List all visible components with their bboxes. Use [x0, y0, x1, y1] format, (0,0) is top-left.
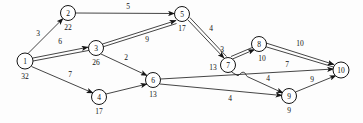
edge-7-9: 4 — [232, 72, 284, 93]
edge-4-6 — [106, 84, 147, 94]
edge-weight-9-10: 9 — [310, 75, 314, 84]
network-diagram: 3 6 7 5 9 2 — [0, 0, 363, 123]
node-6-value: 13 — [149, 90, 157, 99]
edge-1-4: 7 — [32, 67, 94, 94]
edge-weight-3-6: 2 — [124, 53, 128, 62]
node-7[interactable]: 7 13 — [209, 58, 235, 73]
node-3-value: 26 — [92, 58, 100, 67]
node-1-value: 32 — [21, 72, 29, 81]
node-2-label: 2 — [66, 9, 70, 18]
graph-canvas: 3 6 7 5 9 2 — [0, 0, 363, 123]
node-2-value: 22 — [64, 23, 72, 32]
edge-6-9: 4 — [160, 84, 282, 103]
edge-3-5: 9 — [102, 21, 177, 48]
edge-weight-7-9: 4 — [266, 74, 270, 83]
node-4-value: 17 — [95, 107, 103, 116]
edge-9-10: 9 — [296, 75, 337, 92]
node-3[interactable]: 3 26 — [89, 41, 104, 68]
edge-weight-6-10: 7 — [285, 60, 289, 69]
node-5[interactable]: 5 17 — [175, 7, 190, 34]
edge-weight-1-4: 7 — [68, 70, 72, 79]
node-8-value: 10 — [258, 54, 266, 63]
node-1[interactable]: 1 32 — [17, 53, 33, 81]
edge-weight-2-5: 5 — [126, 2, 130, 11]
node-9[interactable]: 9 9 — [282, 89, 297, 116]
node-10-label: 10 — [337, 66, 345, 75]
node-5-value: 17 — [178, 24, 186, 33]
node-7-label: 7 — [226, 61, 230, 70]
node-1-label: 1 — [23, 57, 27, 66]
edge-2-5: 5 — [76, 2, 175, 14]
node-3-label: 3 — [94, 44, 98, 53]
edge-weight-3-5: 9 — [145, 35, 149, 44]
node-5-label: 5 — [180, 10, 184, 19]
edge-weight-1-2: 3 — [36, 29, 40, 38]
edge-weight-8-10: 10 — [296, 39, 304, 48]
node-9-label: 9 — [287, 92, 291, 101]
node-7-value: 13 — [209, 63, 217, 72]
edge-weight-7-8: 3 — [220, 45, 224, 54]
node-9-value: 9 — [287, 106, 291, 115]
node-8[interactable]: 8 10 — [252, 37, 267, 64]
node-4-label: 4 — [97, 93, 101, 102]
node-2[interactable]: 2 22 — [61, 6, 76, 33]
edge-8-10: 10 — [265, 39, 334, 67]
edge-weight-5-7: 4 — [209, 24, 213, 33]
node-8-label: 8 — [257, 40, 261, 49]
node-6-label: 6 — [151, 76, 155, 85]
edge-3-6: 2 — [101, 53, 147, 76]
edge-weight-1-3: 6 — [58, 37, 62, 46]
node-6[interactable]: 6 13 — [146, 73, 161, 100]
edge-7-8: 3 — [220, 45, 254, 59]
edge-weight-6-9: 4 — [228, 94, 232, 103]
node-4[interactable]: 4 17 — [92, 90, 107, 117]
node-10[interactable]: 10 — [333, 62, 349, 78]
edge-1-2: 3 — [28, 19, 63, 54]
